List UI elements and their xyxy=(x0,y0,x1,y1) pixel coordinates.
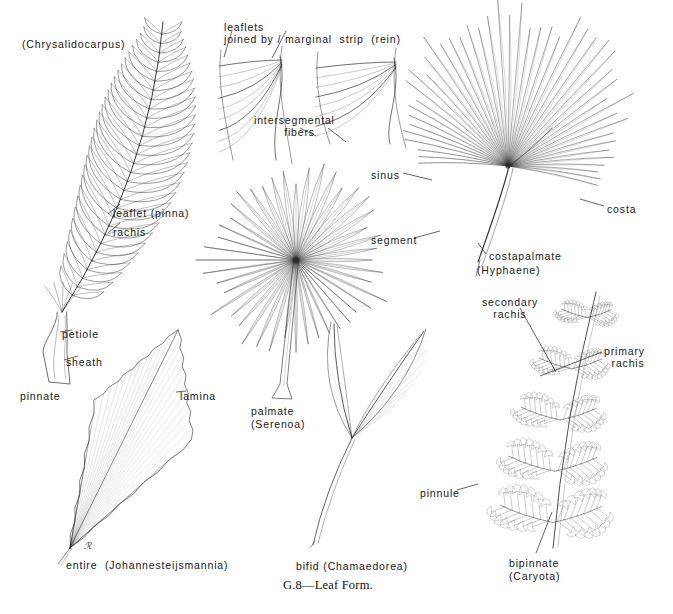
pinnule-stalk xyxy=(587,447,592,461)
pinnule-stalk xyxy=(556,310,565,312)
leaflet-edge xyxy=(78,196,101,243)
bifid-petiole xyxy=(313,438,352,545)
pinnule-blade xyxy=(508,467,517,476)
pinnule-stalk xyxy=(582,354,587,367)
petiole-sheath-outline xyxy=(43,312,70,384)
petiole-inner-line xyxy=(64,316,66,379)
leaflet-edge xyxy=(129,52,155,81)
pleat-vein xyxy=(70,375,126,549)
pinnule-stalk xyxy=(536,447,538,467)
lobe-vein xyxy=(358,351,426,430)
segment-midrib xyxy=(296,197,369,260)
pinnule-blade xyxy=(588,395,596,402)
pinnule-stalk xyxy=(578,305,579,316)
secondary-rachis-line xyxy=(521,407,560,420)
label-pinnate: pinnate xyxy=(20,390,60,403)
leaflet xyxy=(155,63,190,81)
pinnule-stalk xyxy=(545,419,558,423)
segment xyxy=(508,28,541,167)
leaflet xyxy=(60,266,73,296)
leader-segment xyxy=(414,231,440,238)
costa-hub xyxy=(505,163,510,168)
pinnule-stalk xyxy=(571,518,588,532)
pinnule-stalk xyxy=(512,445,514,458)
pinnule-blade xyxy=(603,321,609,327)
leaflet xyxy=(145,18,162,35)
pinnule-stalk xyxy=(581,464,596,476)
intersegmental-fiber xyxy=(316,66,396,116)
pinnule-stalk xyxy=(570,468,585,481)
pleat-vein xyxy=(70,362,141,548)
pinnule-blade xyxy=(490,511,499,521)
pinnule-stalk xyxy=(533,359,543,362)
pinnule-stalk xyxy=(514,517,533,525)
leaflet xyxy=(144,27,161,44)
segment-edge xyxy=(441,44,509,166)
segment-midrib xyxy=(296,188,358,260)
pinnule-stalk xyxy=(568,358,569,368)
pleat-vein xyxy=(70,430,191,548)
pinnule-blade xyxy=(582,527,593,538)
segment-midrib xyxy=(212,260,296,314)
label-bipinnate: bipinnate xyxy=(509,557,559,570)
pinnule-stalk xyxy=(558,312,568,315)
pinnule-blade xyxy=(595,371,602,378)
leaflet xyxy=(91,137,124,191)
pinnule-stalk xyxy=(539,398,541,415)
segment-midrib xyxy=(257,260,296,346)
pinnule-stalk xyxy=(542,451,544,469)
pleat-vein xyxy=(70,339,179,548)
segment-edge xyxy=(508,40,609,166)
label-leaflets-joined: leaflets joined by / marginal strip (rei… xyxy=(224,21,401,46)
pinnule-blade xyxy=(589,525,600,536)
pinnule-stalk xyxy=(549,455,551,470)
pinnule-stalk xyxy=(578,356,582,367)
pinnule-stalk xyxy=(563,408,567,419)
pinnule-stalk xyxy=(573,417,587,428)
segment-midrib xyxy=(296,260,319,338)
leaflet xyxy=(158,47,186,62)
pinnule-stalk xyxy=(507,515,527,523)
leaflet xyxy=(89,146,121,199)
pinnule-stalk xyxy=(570,450,577,468)
pinnule-stalk xyxy=(576,317,586,320)
pinnule-stalk xyxy=(558,368,569,372)
leaflet-edge xyxy=(89,146,120,199)
pinnule-stalk xyxy=(590,494,596,511)
pinnule-blade xyxy=(581,476,591,486)
segment-edge xyxy=(508,51,615,166)
leaflet-edge xyxy=(144,27,161,44)
pleat-vein xyxy=(70,412,188,548)
pleat-vein xyxy=(70,343,163,548)
pinnule-stalk xyxy=(531,495,534,518)
pinnule-blade xyxy=(588,423,596,432)
pinnule-stalk xyxy=(505,460,520,466)
leaflet-edge xyxy=(124,173,184,191)
pinnule-stalk xyxy=(542,351,543,360)
pinnule-blade xyxy=(564,404,572,410)
bifid-leaf-chamaedorea xyxy=(310,322,427,548)
pinnule-blade xyxy=(515,469,524,478)
pinnule-stalk xyxy=(571,498,579,518)
entire-script-r-mark: ℛ xyxy=(84,541,91,551)
pinnule-stalk xyxy=(598,315,608,322)
leaflet xyxy=(129,52,155,81)
leader-costa xyxy=(580,199,604,206)
segment xyxy=(508,40,609,166)
intersegmental-fiber xyxy=(219,61,282,77)
label-rachis: rachis xyxy=(113,226,146,239)
palmate-leaf-serenoa xyxy=(196,164,387,399)
leaflet xyxy=(102,105,137,155)
segment xyxy=(296,258,372,260)
leaflet xyxy=(114,77,147,118)
figure-caption: G.8—Leaf Form. xyxy=(283,578,373,593)
leaflet xyxy=(96,120,130,173)
pinnule-stalk xyxy=(559,353,561,367)
label-entire: entire (Johannesteijsmannia) xyxy=(66,559,228,572)
basal-leaflet xyxy=(62,287,81,312)
pinnule-blade xyxy=(595,522,605,533)
primary-rachis-edge xyxy=(558,296,600,547)
pinnule-stalk xyxy=(558,506,564,521)
leaflet xyxy=(157,55,188,72)
pinnule-stalk xyxy=(568,405,573,419)
